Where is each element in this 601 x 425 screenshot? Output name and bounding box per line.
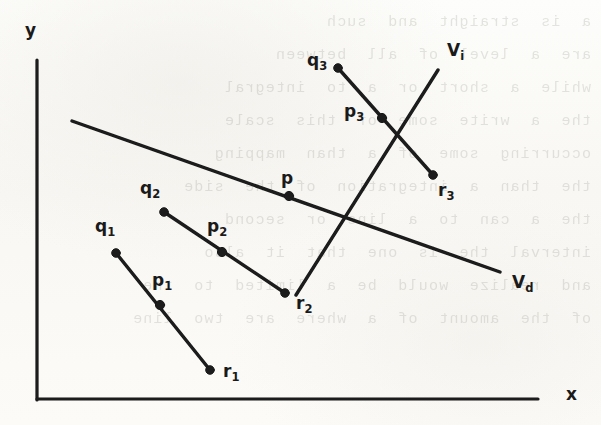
point-label-p2: p2 <box>207 216 227 239</box>
line-label-vi: Vi <box>447 40 464 63</box>
point-label-p1-sub: 1 <box>164 279 172 293</box>
point-label-q1-base: q <box>95 216 107 236</box>
point-label-r3: r3 <box>438 180 454 203</box>
point-label-q3-sub: 3 <box>319 59 327 73</box>
point-label-r3-sub: 3 <box>446 189 454 203</box>
point-p <box>284 191 293 200</box>
point-p1 <box>155 300 164 309</box>
point-label-r2-sub: 2 <box>304 302 312 316</box>
geometry-figure <box>0 0 601 425</box>
line-label-vd-sub: d <box>525 281 533 295</box>
x-axis-label: x <box>566 384 577 404</box>
point-label-q3: q3 <box>307 50 327 73</box>
line-label-vd: Vd <box>512 272 533 295</box>
point-r3 <box>429 171 438 180</box>
point-label-p: p <box>281 168 293 188</box>
line-vi <box>296 70 438 295</box>
point-label-p3-base: p <box>344 101 356 121</box>
point-label-p3: p3 <box>344 101 364 124</box>
point-label-q1: q1 <box>95 216 115 239</box>
y-axis-label: y <box>25 20 36 40</box>
point-label-p-base: p <box>281 168 293 188</box>
line-label-vi-base: V <box>447 40 460 60</box>
line-label-vi-sub: i <box>460 49 464 63</box>
point-p3 <box>377 113 386 122</box>
point-label-r1: r1 <box>223 361 239 384</box>
point-label-q1-sub: 1 <box>107 225 115 239</box>
figure-page: a is straight and suchare a level of all… <box>0 0 601 425</box>
point-label-p3-sub: 3 <box>356 110 364 124</box>
point-r1 <box>206 366 215 375</box>
point-r2 <box>281 289 290 298</box>
point-label-r2: r2 <box>296 293 312 316</box>
point-label-p1-base: p <box>152 270 164 290</box>
point-label-q2: q2 <box>140 178 160 201</box>
point-label-q3-base: q <box>307 50 319 70</box>
line-label-vd-base: V <box>512 272 525 292</box>
point-label-p2-sub: 2 <box>219 225 227 239</box>
point-q3 <box>334 64 343 73</box>
point-label-p2-base: p <box>207 216 219 236</box>
point-label-p1: p1 <box>152 270 172 293</box>
point-q2 <box>160 208 169 217</box>
point-q1 <box>112 249 121 258</box>
point-label-q2-base: q <box>140 178 152 198</box>
point-label-r1-sub: 1 <box>231 370 239 384</box>
point-label-q2-sub: 2 <box>152 187 160 201</box>
point-p2 <box>217 247 226 256</box>
